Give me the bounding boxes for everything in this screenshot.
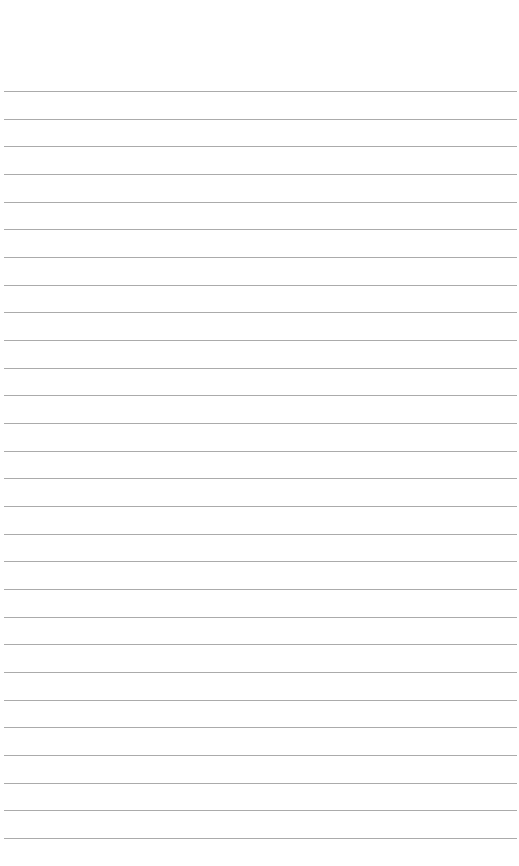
ruled-line xyxy=(4,534,517,535)
ruled-line xyxy=(4,838,517,839)
ruled-paper-page xyxy=(0,0,519,866)
ruled-line xyxy=(4,174,517,175)
ruled-line xyxy=(4,368,517,369)
ruled-line xyxy=(4,312,517,313)
ruled-line xyxy=(4,700,517,701)
ruled-line xyxy=(4,423,517,424)
ruled-line xyxy=(4,229,517,230)
ruled-line xyxy=(4,285,517,286)
ruled-line xyxy=(4,672,517,673)
ruled-line xyxy=(4,257,517,258)
ruled-line xyxy=(4,91,517,92)
ruled-line xyxy=(4,561,517,562)
ruled-line xyxy=(4,727,517,728)
ruled-line xyxy=(4,644,517,645)
ruled-line xyxy=(4,340,517,341)
ruled-line xyxy=(4,783,517,784)
ruled-line xyxy=(4,810,517,811)
ruled-line xyxy=(4,506,517,507)
ruled-line xyxy=(4,451,517,452)
ruled-line xyxy=(4,119,517,120)
ruled-line xyxy=(4,755,517,756)
ruled-line xyxy=(4,589,517,590)
ruled-line xyxy=(4,146,517,147)
ruled-line xyxy=(4,202,517,203)
ruled-line xyxy=(4,478,517,479)
ruled-line xyxy=(4,395,517,396)
ruled-line xyxy=(4,617,517,618)
